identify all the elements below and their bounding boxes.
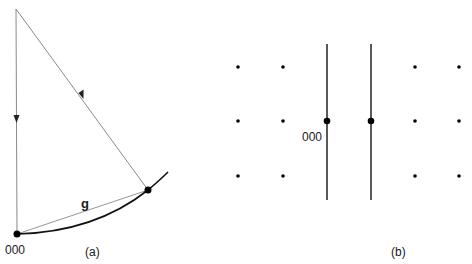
diffracted-ray bbox=[16, 9, 148, 190]
incident-ray-arrow-icon bbox=[14, 115, 20, 123]
origin-label-a: 000 bbox=[5, 243, 25, 257]
g-point bbox=[145, 187, 152, 194]
origin-point bbox=[14, 231, 21, 238]
caption-b: (b) bbox=[391, 245, 406, 259]
g-vector-label: g bbox=[81, 196, 89, 211]
origin-point-b bbox=[324, 118, 331, 125]
reciprocal-lattice-dots bbox=[236, 65, 461, 178]
ewald-sphere-arc bbox=[17, 172, 168, 234]
panel-a bbox=[14, 9, 169, 238]
origin-label-b: 000 bbox=[302, 130, 322, 144]
g-point-b bbox=[368, 118, 375, 125]
caption-a: (a) bbox=[85, 245, 100, 259]
diffraction-diagram bbox=[0, 0, 472, 264]
panel-b bbox=[236, 44, 461, 200]
